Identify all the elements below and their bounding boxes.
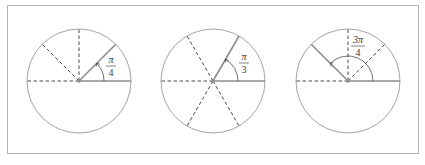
angle-arc [97, 63, 104, 81]
dashed-ray-135 [42, 44, 79, 81]
angle-arc [226, 59, 239, 81]
angle-arc [330, 56, 373, 81]
panel-pi-over-4: π 4 [27, 29, 131, 133]
panel-pi-over-3: π 3 [161, 29, 265, 133]
panel-3pi-over-4: 3π 4 [296, 29, 400, 133]
angle-label-numerator: π [108, 54, 114, 65]
terminal-side-ray [213, 36, 239, 81]
dashed-ray-120 [187, 36, 213, 81]
dashed-ray-240 [187, 81, 213, 126]
origin-dot [346, 79, 350, 83]
angle-label-numerator: π [241, 51, 247, 62]
angle-label-numerator: 3π [352, 34, 364, 45]
angle-label-denominator: 3 [242, 64, 247, 75]
angle-diagram: π 4 π 3 3π 4 [0, 0, 425, 165]
terminal-side-ray [311, 44, 348, 81]
angle-label-denominator: 4 [109, 67, 114, 78]
origin-dot [77, 79, 81, 83]
origin-dot [211, 79, 215, 83]
dashed-ray-300 [213, 81, 239, 126]
dashed-ray-45 [348, 44, 385, 81]
angle-label-denominator: 4 [356, 47, 361, 58]
